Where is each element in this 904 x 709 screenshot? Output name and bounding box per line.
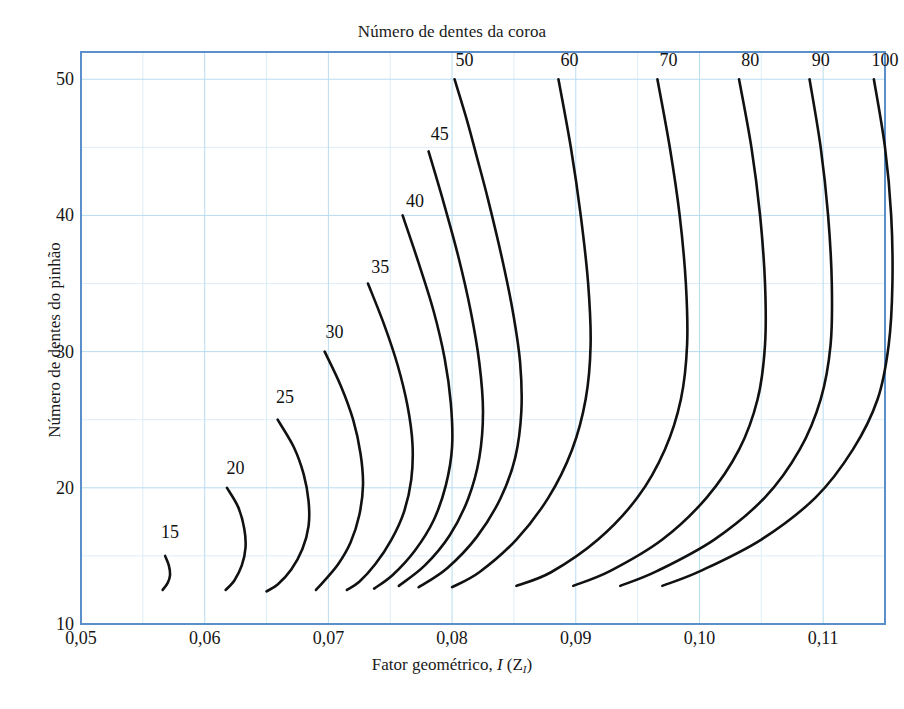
data-curves [163, 79, 893, 591]
x-axis-paren-close: ) [527, 655, 533, 674]
curve-label-60: 60 [561, 50, 579, 71]
curve-label-15: 15 [161, 522, 179, 543]
curve-label-50: 50 [455, 50, 473, 71]
curve-label-45: 45 [431, 124, 449, 145]
curve-20 [226, 488, 246, 590]
y-tick-label: 10 [34, 614, 74, 635]
x-tick-label: 0,07 [313, 628, 345, 649]
curve-label-30: 30 [326, 322, 344, 343]
x-axis-title-text: Fator geométrico, [372, 655, 493, 674]
x-axis-paren-open: (Z [507, 655, 523, 674]
x-tick-label: 0,06 [189, 628, 221, 649]
chart-plot-svg [0, 0, 904, 709]
x-tick-label: 0,11 [808, 628, 839, 649]
curve-label-40: 40 [406, 191, 424, 212]
y-axis-title: Número de dentes do pinhão [45, 190, 65, 490]
curve-label-100: 100 [872, 50, 899, 71]
curve-15 [163, 556, 170, 590]
curve-label-90: 90 [812, 50, 830, 71]
x-tick-label: 0,09 [560, 628, 592, 649]
chart-figure: Número de dentes da coroa 0,050,060,070,… [0, 0, 904, 709]
y-tick-label: 50 [34, 69, 74, 90]
curve-label-80: 80 [741, 50, 759, 71]
curve-30 [316, 352, 363, 590]
x-tick-label: 0,08 [436, 628, 468, 649]
curve-50 [419, 79, 522, 587]
curve-label-20: 20 [227, 458, 245, 479]
x-axis-title: Fator geométrico, I (ZI) [0, 655, 904, 675]
curve-80 [573, 79, 766, 586]
x-tick-label: 0,10 [684, 628, 716, 649]
curve-60 [452, 79, 591, 587]
curve-label-35: 35 [371, 257, 389, 278]
x-axis-symbol: I [497, 655, 503, 674]
curve-label-25: 25 [276, 387, 294, 408]
curve-45 [399, 151, 483, 585]
curve-label-70: 70 [660, 50, 678, 71]
curve-25 [267, 420, 310, 592]
curve-70 [516, 79, 687, 586]
